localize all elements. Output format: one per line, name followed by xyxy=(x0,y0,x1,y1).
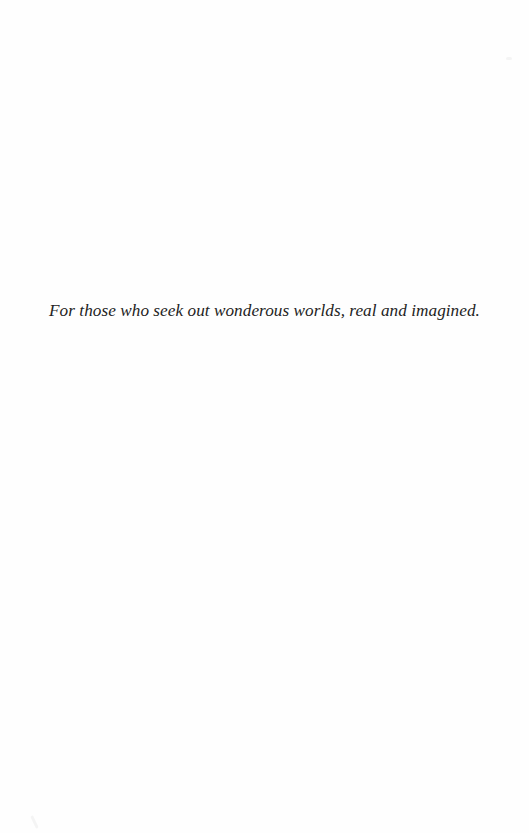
dedication-text: For those who seek out wonderous worlds,… xyxy=(0,300,529,322)
scan-artifact-bottom-left xyxy=(30,815,39,829)
scan-artifact-top-right xyxy=(506,57,512,60)
book-page: For those who seek out wonderous worlds,… xyxy=(0,0,529,833)
